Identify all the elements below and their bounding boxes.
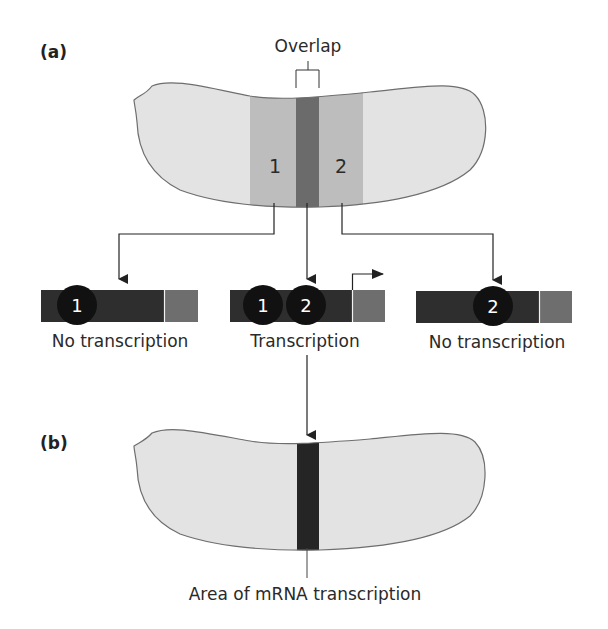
panel-b-label: (b) <box>40 433 68 453</box>
region-1-label: 1 <box>269 155 281 177</box>
connector-arrows <box>119 203 493 280</box>
gene-row: 1 No transcription 1 2 Transcription 2 N… <box>41 274 572 435</box>
arrow-to-gene-1 <box>119 203 274 279</box>
gene-caption: No transcription <box>52 331 189 351</box>
panel-b: (b) Area of mRNA transcription <box>40 420 485 604</box>
region-2-label: 2 <box>335 155 347 177</box>
factor-label: 1 <box>71 295 82 316</box>
overlap-label: Overlap <box>275 36 342 56</box>
embryo-a: 1 2 <box>134 60 486 230</box>
factor-label: 2 <box>487 296 498 317</box>
gene-construct-2: 1 2 Transcription <box>230 274 385 351</box>
gene-box <box>165 290 198 322</box>
diagram-canvas: (a) Overlap 1 2 <box>0 0 608 629</box>
gene-construct-3: 2 No transcription <box>416 286 572 352</box>
panel-a: (a) Overlap 1 2 <box>40 36 493 280</box>
gene-caption: Transcription <box>249 331 359 351</box>
panel-b-caption: Area of mRNA transcription <box>189 584 422 604</box>
gene-caption: No transcription <box>429 332 566 352</box>
transcription-start-arrow-icon <box>353 274 384 290</box>
arrow-to-gene-3 <box>342 203 493 280</box>
overlap-bracket <box>296 61 319 88</box>
factor-label: 2 <box>300 295 311 316</box>
embryo-b <box>134 420 485 570</box>
gene-box <box>353 290 385 322</box>
panel-a-label: (a) <box>40 42 67 62</box>
factor-label: 1 <box>257 295 268 316</box>
gene-construct-1: 1 No transcription <box>41 285 198 351</box>
gene-box <box>540 291 572 323</box>
